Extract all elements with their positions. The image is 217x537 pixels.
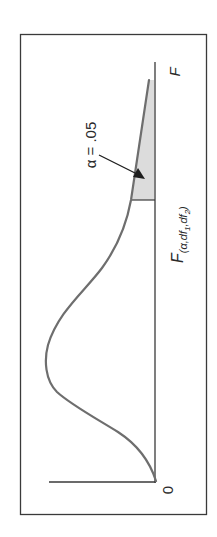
origin-label: 0 (159, 486, 176, 494)
f-distribution-diagram: F 0 α = .05 F(α,df1,df2) (0, 0, 217, 537)
f-axis-label: F (166, 67, 183, 77)
diagram-frame (21, 35, 207, 515)
critical-value-label: F(α,df1,df2) (169, 206, 192, 263)
density-curve (46, 80, 156, 481)
alpha-label: α = .05 (82, 122, 99, 169)
alpha-arrow-shaft (99, 155, 139, 175)
